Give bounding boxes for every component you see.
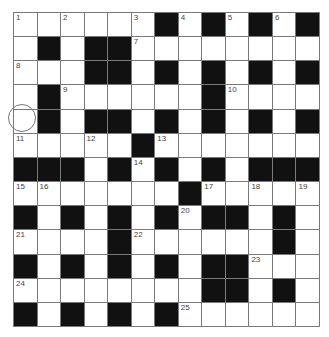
grid-cell[interactable]: 1 bbox=[14, 13, 38, 37]
grid-cell[interactable] bbox=[61, 61, 85, 85]
grid-cell[interactable]: 18 bbox=[249, 182, 273, 206]
grid-cell[interactable] bbox=[61, 134, 85, 158]
grid-cell[interactable] bbox=[226, 134, 250, 158]
grid-cell[interactable] bbox=[226, 110, 250, 134]
grid-cell[interactable] bbox=[202, 303, 226, 327]
grid-cell[interactable] bbox=[273, 134, 297, 158]
grid-cell[interactable]: 14 bbox=[132, 158, 156, 182]
grid-cell[interactable] bbox=[132, 255, 156, 279]
grid-cell[interactable] bbox=[226, 303, 250, 327]
grid-cell[interactable] bbox=[61, 230, 85, 254]
grid-cell[interactable]: 25 bbox=[179, 303, 203, 327]
grid-cell[interactable] bbox=[226, 158, 250, 182]
grid-cell[interactable] bbox=[202, 230, 226, 254]
grid-cell[interactable] bbox=[226, 61, 250, 85]
grid-cell[interactable] bbox=[226, 230, 250, 254]
grid-cell[interactable]: 2 bbox=[61, 13, 85, 37]
grid-cell[interactable] bbox=[296, 37, 320, 61]
grid-cell[interactable] bbox=[249, 134, 273, 158]
grid-cell[interactable] bbox=[273, 85, 297, 109]
grid-cell[interactable] bbox=[249, 37, 273, 61]
grid-cell[interactable]: 15 bbox=[14, 182, 38, 206]
grid-cell[interactable]: 11 bbox=[14, 134, 38, 158]
grid-cell[interactable]: 13 bbox=[155, 134, 179, 158]
grid-cell[interactable] bbox=[61, 279, 85, 303]
grid-cell[interactable] bbox=[296, 279, 320, 303]
grid-cell[interactable] bbox=[202, 37, 226, 61]
grid-cell[interactable] bbox=[85, 85, 109, 109]
grid-cell[interactable] bbox=[14, 110, 38, 134]
grid-cell[interactable] bbox=[296, 255, 320, 279]
grid-cell[interactable]: 3 bbox=[132, 13, 156, 37]
grid-cell[interactable] bbox=[179, 158, 203, 182]
grid-cell[interactable] bbox=[108, 85, 132, 109]
grid-cell[interactable] bbox=[85, 303, 109, 327]
grid-cell[interactable]: 12 bbox=[85, 134, 109, 158]
grid-cell[interactable]: 10 bbox=[226, 85, 250, 109]
grid-cell[interactable] bbox=[132, 182, 156, 206]
grid-cell[interactable] bbox=[108, 13, 132, 37]
grid-cell[interactable] bbox=[296, 206, 320, 230]
grid-cell[interactable]: 4 bbox=[179, 13, 203, 37]
grid-cell[interactable] bbox=[61, 182, 85, 206]
grid-cell[interactable] bbox=[179, 85, 203, 109]
grid-cell[interactable] bbox=[273, 303, 297, 327]
grid-cell[interactable] bbox=[14, 85, 38, 109]
grid-cell[interactable] bbox=[38, 279, 62, 303]
grid-cell[interactable]: 9 bbox=[61, 85, 85, 109]
grid-cell[interactable] bbox=[155, 182, 179, 206]
grid-cell[interactable] bbox=[273, 255, 297, 279]
grid-cell[interactable]: 21 bbox=[14, 230, 38, 254]
grid-cell[interactable] bbox=[38, 206, 62, 230]
grid-cell[interactable] bbox=[179, 279, 203, 303]
grid-cell[interactable] bbox=[296, 85, 320, 109]
grid-cell[interactable]: 20 bbox=[179, 206, 203, 230]
grid-cell[interactable] bbox=[226, 182, 250, 206]
grid-cell[interactable] bbox=[85, 230, 109, 254]
grid-cell[interactable]: 17 bbox=[202, 182, 226, 206]
grid-cell[interactable] bbox=[85, 255, 109, 279]
grid-cell[interactable] bbox=[249, 230, 273, 254]
grid-cell[interactable] bbox=[179, 37, 203, 61]
grid-cell[interactable] bbox=[132, 110, 156, 134]
grid-cell[interactable] bbox=[85, 182, 109, 206]
grid-cell[interactable] bbox=[108, 182, 132, 206]
grid-cell[interactable] bbox=[108, 134, 132, 158]
grid-cell[interactable] bbox=[85, 279, 109, 303]
grid-cell[interactable] bbox=[38, 303, 62, 327]
grid-cell[interactable] bbox=[273, 61, 297, 85]
grid-cell[interactable] bbox=[249, 279, 273, 303]
grid-cell[interactable]: 23 bbox=[249, 255, 273, 279]
grid-cell[interactable] bbox=[38, 61, 62, 85]
grid-cell[interactable] bbox=[132, 61, 156, 85]
grid-cell[interactable] bbox=[155, 230, 179, 254]
grid-cell[interactable] bbox=[85, 206, 109, 230]
grid-cell[interactable] bbox=[296, 303, 320, 327]
grid-cell[interactable] bbox=[132, 85, 156, 109]
grid-cell[interactable] bbox=[132, 279, 156, 303]
grid-cell[interactable] bbox=[108, 279, 132, 303]
grid-cell[interactable]: 8 bbox=[14, 61, 38, 85]
grid-cell[interactable] bbox=[38, 13, 62, 37]
grid-cell[interactable] bbox=[132, 303, 156, 327]
grid-cell[interactable]: 6 bbox=[273, 13, 297, 37]
grid-cell[interactable] bbox=[155, 85, 179, 109]
grid-cell[interactable] bbox=[38, 134, 62, 158]
grid-cell[interactable] bbox=[273, 182, 297, 206]
grid-cell[interactable] bbox=[179, 255, 203, 279]
grid-cell[interactable] bbox=[179, 61, 203, 85]
grid-cell[interactable]: 19 bbox=[296, 182, 320, 206]
grid-cell[interactable] bbox=[61, 37, 85, 61]
grid-cell[interactable] bbox=[179, 230, 203, 254]
grid-cell[interactable]: 7 bbox=[132, 37, 156, 61]
grid-cell[interactable] bbox=[132, 206, 156, 230]
grid-cell[interactable] bbox=[14, 37, 38, 61]
grid-cell[interactable] bbox=[155, 279, 179, 303]
grid-cell[interactable] bbox=[179, 134, 203, 158]
grid-cell[interactable] bbox=[85, 158, 109, 182]
grid-cell[interactable] bbox=[202, 134, 226, 158]
grid-cell[interactable] bbox=[85, 13, 109, 37]
grid-cell[interactable]: 5 bbox=[226, 13, 250, 37]
grid-cell[interactable] bbox=[38, 255, 62, 279]
grid-cell[interactable] bbox=[273, 110, 297, 134]
